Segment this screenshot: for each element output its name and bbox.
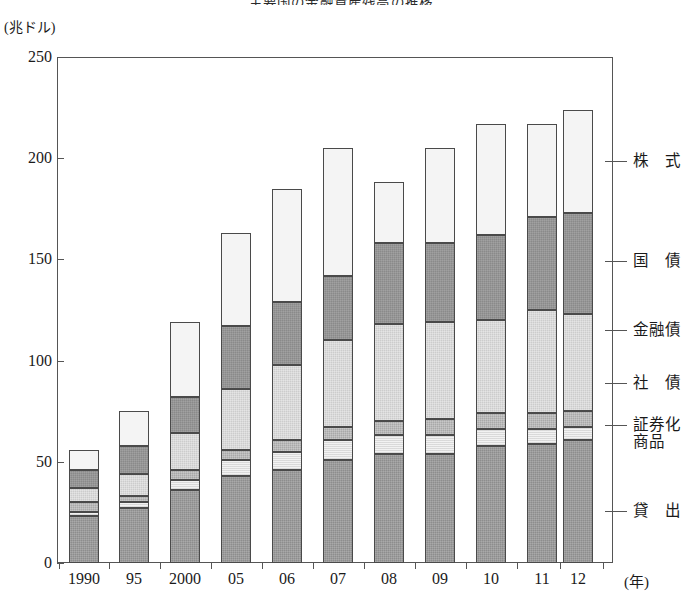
legend-label-corp: 社 債 <box>633 374 681 391</box>
legend-label-text-corp: 社 債 <box>633 374 681 391</box>
legend-label-text-loan: 貸 出 <box>633 502 681 519</box>
y-axis-tick-label: 150 <box>4 251 52 267</box>
bar-segment-株式-11 <box>527 124 557 217</box>
x-axis-tick-label: 07 <box>330 570 346 588</box>
x-axis-tick-mark <box>517 563 518 569</box>
x-axis-tick-label: 11 <box>534 570 549 588</box>
x-axis-tick-mark <box>160 563 161 569</box>
bar-segment-貸出-95 <box>119 508 149 563</box>
bar-segment-株式-06 <box>272 189 302 302</box>
bar-segment-金融債-05 <box>221 389 251 450</box>
bar-segment-貸出-12 <box>563 440 593 563</box>
bar-segment-証券化商品-07 <box>323 440 353 460</box>
legend-label-text2-secz: 商品 <box>633 433 681 450</box>
x-axis-tick-label: 05 <box>228 570 244 588</box>
bar-2000 <box>170 0 200 563</box>
legend-leader-line-corp <box>605 383 627 384</box>
legend-leader-line-govt <box>605 261 627 262</box>
bar-segment-金融債-06 <box>272 365 302 440</box>
x-axis-tick-mark <box>603 563 604 569</box>
bar-segment-証券化商品-06 <box>272 452 302 470</box>
bar-06 <box>272 0 302 563</box>
bar-segment-株式-09 <box>425 148 455 243</box>
legend-leader-line-secz <box>605 425 627 426</box>
legend-leader-line-stock <box>605 161 627 162</box>
bar-09 <box>425 0 455 563</box>
bar-segment-社債-09 <box>425 419 455 435</box>
bar-segment-国債-06 <box>272 302 302 365</box>
x-axis-tick-label: 2000 <box>169 570 201 588</box>
bar-segment-社債-95 <box>119 496 149 502</box>
bar-segment-国債-05 <box>221 326 251 389</box>
bar-segment-金融債-07 <box>323 340 353 427</box>
x-axis-tick-mark <box>466 563 467 569</box>
bar-segment-貸出-06 <box>272 470 302 563</box>
bar-segment-株式-12 <box>563 110 593 213</box>
bar-segment-株式-05 <box>221 233 251 326</box>
legend-label-fin: 金融債 <box>633 321 681 338</box>
x-axis-tick-label: 1990 <box>68 570 100 588</box>
bar-segment-金融債-09 <box>425 322 455 419</box>
y-axis-tick-mark <box>57 361 64 362</box>
bar-segment-証券化商品-11 <box>527 429 557 443</box>
bar-segment-証券化商品-2000 <box>170 480 200 490</box>
bar-segment-社債-06 <box>272 440 302 452</box>
bar-segment-金融債-1990 <box>69 488 99 502</box>
x-axis-tick-label: 12 <box>570 570 586 588</box>
bar-segment-貸出-08 <box>374 454 404 563</box>
bar-segment-貸出-05 <box>221 476 251 563</box>
bar-11 <box>527 0 557 563</box>
legend-label-text-govt: 国 債 <box>633 252 681 269</box>
bar-segment-証券化商品-95 <box>119 502 149 508</box>
y-axis-tick-mark <box>57 462 64 463</box>
y-axis-tick-mark <box>57 158 64 159</box>
y-axis-unit-label: (兆ドル) <box>4 16 55 36</box>
bar-segment-国債-10 <box>476 235 506 320</box>
y-axis-tick-label: 100 <box>4 353 52 369</box>
y-axis-tick-label: 0 <box>4 555 52 571</box>
x-axis-tick-mark <box>59 563 60 569</box>
bar-07 <box>323 0 353 563</box>
bar-segment-金融債-2000 <box>170 433 200 469</box>
bar-segment-貸出-11 <box>527 444 557 563</box>
bar-segment-国債-07 <box>323 276 353 341</box>
legend-leader-line-fin <box>605 330 627 331</box>
bar-segment-国債-2000 <box>170 397 200 433</box>
bar-segment-社債-1990 <box>69 502 99 512</box>
bar-segment-証券化商品-10 <box>476 429 506 445</box>
legend-label-stock: 株 式 <box>633 152 681 169</box>
bar-segment-貸出-10 <box>476 446 506 563</box>
x-axis-tick-mark <box>415 563 416 569</box>
bar-1990 <box>69 0 99 563</box>
bar-segment-株式-10 <box>476 124 506 235</box>
x-axis-tick-label: 09 <box>432 570 448 588</box>
x-axis-tick-label: 06 <box>279 570 295 588</box>
bar-segment-証券化商品-09 <box>425 435 455 453</box>
bar-segment-証券化商品-1990 <box>69 512 99 516</box>
bar-10 <box>476 0 506 563</box>
x-axis-unit-label: (年) <box>624 570 649 591</box>
y-axis-tick-label: 200 <box>4 150 52 166</box>
legend-leader-line-loan <box>605 511 627 512</box>
bar-95 <box>119 0 149 563</box>
legend-label-secz: 証券化商品 <box>633 416 681 450</box>
bar-segment-社債-2000 <box>170 470 200 480</box>
bar-segment-社債-12 <box>563 411 593 427</box>
y-axis-tick-label: 50 <box>4 454 52 470</box>
legend-label-text-stock: 株 式 <box>633 152 681 169</box>
x-axis-tick-label: 95 <box>126 570 142 588</box>
bar-segment-株式-95 <box>119 411 149 445</box>
bar-segment-社債-07 <box>323 427 353 439</box>
bar-segment-社債-11 <box>527 413 557 429</box>
bar-segment-証券化商品-05 <box>221 460 251 476</box>
bar-segment-金融債-11 <box>527 310 557 413</box>
x-axis-tick-mark <box>364 563 365 569</box>
bar-12 <box>563 0 593 563</box>
x-axis-tick-mark <box>109 563 110 569</box>
legend-label-text-secz: 証券化 <box>633 416 681 433</box>
bar-segment-国債-1990 <box>69 470 99 488</box>
bar-segment-金融債-95 <box>119 474 149 496</box>
bar-05 <box>221 0 251 563</box>
bar-segment-国債-95 <box>119 446 149 474</box>
x-axis-tick-mark <box>560 563 561 569</box>
